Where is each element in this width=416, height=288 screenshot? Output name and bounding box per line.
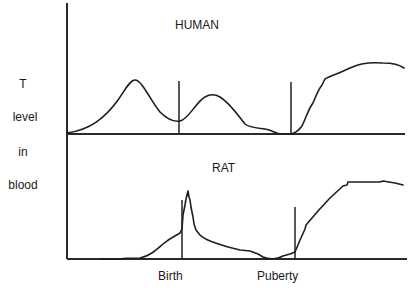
y-label-t: T	[19, 77, 27, 91]
human-curve	[67, 63, 404, 134]
y-label-blood: blood	[8, 178, 37, 192]
puberty-label: Puberty	[257, 269, 298, 283]
testosterone-diagram: T level in blood HUMAN RAT Birth Puberty	[0, 0, 416, 288]
rat-curve	[100, 181, 403, 259]
y-label-level: level	[13, 110, 38, 124]
human-panel-title: HUMAN	[175, 18, 219, 32]
y-label-in: in	[18, 145, 27, 159]
rat-panel-title: RAT	[212, 161, 236, 175]
birth-label: Birth	[158, 269, 183, 283]
